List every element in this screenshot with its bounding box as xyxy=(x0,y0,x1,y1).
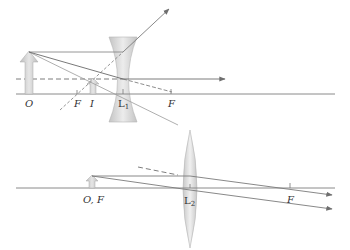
label-focal-right: F xyxy=(167,98,176,109)
ray-central-bottom-exit xyxy=(190,190,332,209)
concave-lens-l1 xyxy=(109,37,137,122)
label-object-o: O xyxy=(25,98,33,109)
image-arrow-i xyxy=(87,78,99,94)
label-object-focal: O, F xyxy=(83,194,105,205)
top-panel: O F I L1 F xyxy=(16,9,335,125)
object-arrow-o xyxy=(20,51,38,94)
bottom-panel: O, F L2 F xyxy=(16,130,335,248)
ray-toward-focal-dashed xyxy=(123,79,172,92)
ray-refracted-through-f xyxy=(190,176,332,195)
ray-diverging-refracted xyxy=(123,9,169,52)
label-focal-left: F xyxy=(73,98,82,109)
optics-ray-diagram: O F I L1 F O, F L2 F xyxy=(0,0,350,250)
incoming-ray-dashed xyxy=(138,167,178,175)
label-focal-bottom: F xyxy=(286,194,295,205)
label-image-i: I xyxy=(89,98,95,109)
ray-central xyxy=(29,52,178,125)
